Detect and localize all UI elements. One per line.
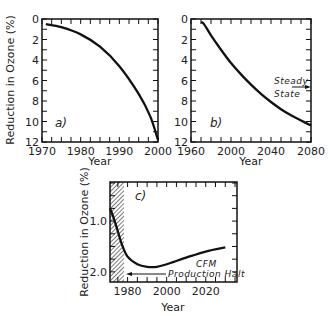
x-axis-title: Year bbox=[160, 301, 185, 314]
annotation-state: State bbox=[274, 89, 300, 99]
y-tick-label: 10 bbox=[25, 116, 39, 129]
x-axis-title: Year bbox=[87, 155, 112, 168]
y-axis-title: Reduction in Ozone (%) bbox=[78, 167, 91, 296]
annotation-cfm: CFM bbox=[196, 259, 217, 269]
panel-label: a) bbox=[55, 116, 67, 130]
y-tick-label: 12 bbox=[25, 136, 39, 149]
y-tick-label: 6 bbox=[181, 75, 188, 88]
y-tick-label: 2.0 bbox=[90, 266, 108, 279]
panel-label: c) bbox=[135, 189, 146, 203]
y-tick-label: 2 bbox=[32, 34, 39, 47]
figure: 1970198019902000 024681012 a) Year Reduc… bbox=[0, 0, 330, 316]
chart-panel-c: 198020002020 1.02.0 c) CFM Production Ha… bbox=[78, 167, 245, 314]
data-line bbox=[201, 22, 311, 126]
x-tick-labels: 198020002020 bbox=[114, 285, 220, 298]
x-tick-label: 2080 bbox=[297, 145, 325, 158]
x-tick-label: 1980 bbox=[114, 285, 142, 298]
y-tick-label: 4 bbox=[32, 54, 39, 67]
y-tick-labels: 1.02.0 bbox=[90, 215, 108, 279]
y-tick-label: 8 bbox=[32, 95, 39, 108]
x-axis-title: Year bbox=[238, 155, 263, 168]
y-axis-title: Reduction in Ozone (%) bbox=[4, 15, 17, 144]
panel-label: b) bbox=[210, 116, 222, 130]
x-tick-label: 2000 bbox=[153, 285, 181, 298]
ticks bbox=[110, 182, 237, 282]
y-tick-label: 4 bbox=[181, 54, 188, 67]
plot-frame bbox=[110, 182, 237, 282]
y-tick-labels: 024681012 bbox=[25, 13, 39, 149]
chart-panel-a: 1970198019902000 024681012 a) Year Reduc… bbox=[4, 13, 172, 168]
y-tick-label: 2 bbox=[181, 34, 188, 47]
y-tick-label: 12 bbox=[174, 136, 188, 149]
y-tick-label: 0 bbox=[181, 13, 188, 26]
y-tick-labels: 024681012 bbox=[174, 13, 188, 149]
y-tick-label: 0 bbox=[32, 13, 39, 26]
annotation-steady: Steady bbox=[274, 76, 309, 86]
chart-panel-b: 1960200020402080 024681012 b) Steady Sta… bbox=[174, 13, 325, 168]
y-tick-label: 10 bbox=[174, 116, 188, 129]
arrow-head-icon bbox=[126, 272, 132, 276]
y-tick-label: 8 bbox=[181, 95, 188, 108]
annotation-production-halt: Production Halt bbox=[168, 269, 245, 279]
x-tick-label: 2000 bbox=[144, 145, 172, 158]
y-tick-label: 6 bbox=[32, 75, 39, 88]
y-tick-label: 1.0 bbox=[90, 215, 108, 228]
x-tick-label: 2020 bbox=[192, 285, 220, 298]
